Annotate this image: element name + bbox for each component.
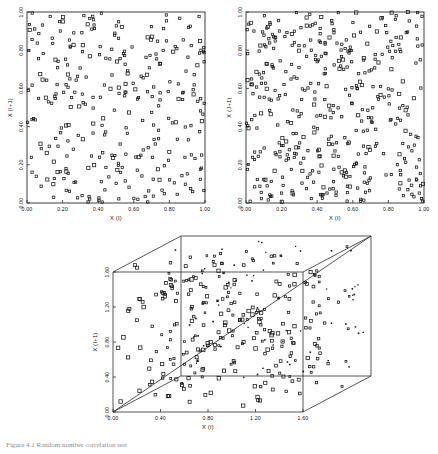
data-point — [319, 155, 321, 157]
data-point — [246, 251, 248, 253]
data-point — [202, 286, 204, 288]
data-point — [203, 102, 205, 104]
data-point — [192, 89, 194, 91]
data-point — [404, 109, 407, 112]
data-point — [127, 70, 129, 72]
data-point — [316, 128, 318, 130]
data-point — [31, 171, 33, 173]
data-point — [400, 174, 402, 176]
data-point — [202, 113, 204, 115]
data-point — [418, 159, 420, 161]
data-point — [357, 187, 359, 189]
data-point — [340, 49, 342, 51]
data-point — [287, 121, 289, 123]
scatter-plot-3d-cube: 0.000.400.801.201.600.000.400.801.201.60… — [70, 228, 400, 442]
x-tick-label: 0.80 — [203, 415, 214, 421]
data-point — [320, 164, 323, 167]
data-point — [313, 103, 316, 106]
data-point — [395, 36, 397, 38]
data-point — [259, 151, 261, 153]
data-point — [261, 31, 263, 33]
data-point — [41, 24, 43, 26]
data-point — [37, 58, 39, 60]
data-point — [408, 179, 410, 181]
data-point — [124, 63, 126, 65]
data-point — [81, 51, 83, 53]
data-point — [340, 56, 342, 58]
data-point — [382, 153, 384, 155]
data-point — [319, 33, 321, 35]
data-point — [158, 178, 161, 181]
data-point — [202, 324, 205, 327]
y-tick-label: 0.40 — [18, 121, 24, 132]
data-point — [266, 185, 268, 187]
data-point — [162, 27, 164, 29]
data-point — [66, 155, 68, 157]
data-point — [421, 200, 423, 202]
data-point — [90, 155, 92, 157]
data-point — [260, 112, 263, 115]
data-point — [195, 335, 197, 337]
data-point — [81, 138, 84, 141]
x-axis-label: X (I) — [202, 424, 214, 430]
data-point — [287, 274, 289, 276]
data-point — [198, 15, 200, 17]
data-point — [402, 104, 404, 106]
data-point — [98, 54, 100, 56]
data-point — [269, 113, 272, 116]
cube-edge — [303, 376, 371, 412]
data-point — [121, 166, 123, 168]
data-point — [247, 52, 249, 54]
data-point — [148, 190, 150, 192]
data-point — [141, 175, 143, 177]
data-point — [295, 132, 297, 134]
data-point — [355, 84, 357, 86]
data-point — [319, 352, 322, 355]
data-point — [147, 201, 149, 203]
data-point — [415, 25, 417, 27]
data-point — [387, 46, 389, 48]
data-point — [52, 160, 55, 163]
data-point — [415, 166, 417, 168]
data-point — [257, 318, 259, 320]
data-point — [192, 190, 194, 192]
data-point — [202, 273, 203, 274]
data-point — [402, 142, 404, 144]
data-point — [266, 27, 268, 29]
data-point — [204, 393, 207, 396]
data-point — [256, 86, 258, 88]
data-point — [105, 57, 107, 59]
data-point — [172, 50, 175, 53]
y-tick-label: 0.40 — [104, 372, 110, 383]
data-point — [174, 300, 177, 303]
data-point — [219, 312, 222, 315]
data-point — [149, 54, 151, 56]
data-point — [344, 137, 346, 139]
data-point — [150, 26, 152, 28]
data-point — [164, 281, 167, 284]
data-point — [173, 358, 175, 360]
data-point — [281, 176, 283, 178]
data-point — [197, 335, 199, 337]
data-point — [142, 305, 146, 309]
data-point — [185, 351, 188, 354]
data-point — [199, 178, 201, 180]
data-point — [93, 27, 95, 29]
data-point — [230, 287, 231, 288]
data-point — [315, 381, 317, 383]
data-point — [285, 390, 287, 392]
data-point — [363, 199, 365, 201]
data-point — [183, 353, 185, 355]
data-point — [261, 242, 262, 243]
data-point — [278, 283, 281, 286]
data-point — [162, 49, 164, 51]
data-point — [258, 50, 260, 52]
data-point — [126, 132, 128, 134]
data-point — [207, 346, 208, 347]
data-point — [269, 42, 271, 44]
data-point — [199, 40, 202, 43]
data-point — [398, 43, 400, 45]
data-point — [364, 191, 366, 193]
data-point — [184, 341, 186, 343]
data-point — [256, 312, 258, 314]
